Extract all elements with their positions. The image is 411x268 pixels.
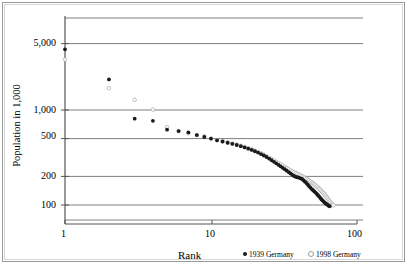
data-point bbox=[186, 131, 190, 135]
data-point bbox=[63, 58, 67, 62]
data-point bbox=[332, 204, 336, 208]
data-point bbox=[63, 47, 67, 51]
data-point bbox=[195, 133, 199, 137]
series-1998 bbox=[63, 58, 335, 208]
data-point bbox=[328, 204, 332, 208]
rank-size-scatter-chart: Population in 1,000 5,000 1,000 500 200 … bbox=[0, 0, 411, 268]
data-point bbox=[177, 129, 181, 133]
data-point bbox=[243, 145, 247, 149]
series-1939 bbox=[63, 47, 331, 208]
data-point bbox=[202, 135, 206, 139]
data-point bbox=[133, 117, 137, 121]
data-point bbox=[246, 147, 250, 151]
plot-area bbox=[0, 0, 411, 268]
data-point bbox=[226, 141, 230, 145]
data-point bbox=[165, 128, 169, 132]
data-point bbox=[215, 138, 219, 142]
data-point bbox=[221, 140, 225, 144]
data-point bbox=[151, 108, 155, 112]
data-point bbox=[133, 98, 137, 102]
data-point bbox=[209, 137, 213, 141]
data-point bbox=[151, 119, 155, 123]
data-point bbox=[235, 143, 239, 147]
data-point bbox=[250, 148, 254, 152]
data-point bbox=[230, 142, 234, 146]
data-point bbox=[107, 86, 111, 90]
data-point bbox=[107, 77, 111, 81]
data-point bbox=[239, 144, 243, 148]
